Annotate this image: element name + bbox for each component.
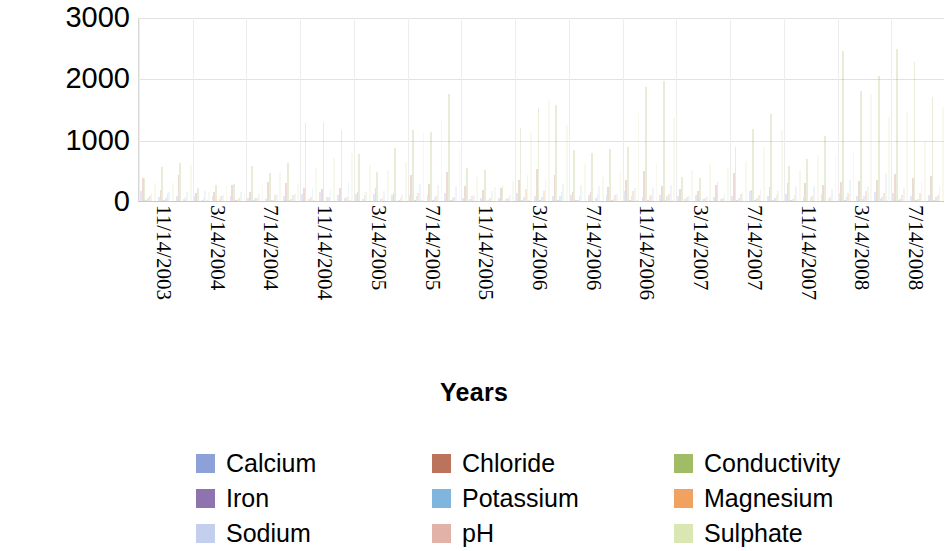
bar: [222, 195, 224, 201]
bar: [849, 180, 851, 201]
bar: [369, 165, 371, 201]
bar: [813, 186, 815, 201]
legend-color-swatch: [674, 524, 693, 543]
bar: [258, 194, 260, 201]
bar: [688, 196, 690, 201]
bar: [602, 177, 604, 201]
bar: [573, 150, 575, 201]
x-axis-tick-label: 3/14/2006: [529, 205, 551, 365]
bar: [742, 192, 744, 201]
legend-item[interactable]: Conductivity: [674, 446, 840, 480]
bar: [745, 161, 747, 201]
bar: [430, 132, 432, 201]
x-axis-tick-label: 7/14/2005: [422, 205, 444, 365]
bar: [699, 178, 701, 201]
bar: [870, 94, 872, 201]
bar: [706, 196, 708, 201]
y-axis-tick-label: 0: [30, 187, 130, 216]
bar: [387, 170, 389, 201]
bar: [656, 164, 658, 201]
legend-color-swatch: [674, 454, 693, 473]
bar: [269, 173, 271, 201]
bar: [681, 177, 683, 201]
bar: [548, 100, 550, 201]
bar: [405, 162, 407, 201]
x-axis-tick-label: 3/14/2005: [368, 205, 390, 365]
bar: [584, 164, 586, 201]
bar: [520, 128, 522, 201]
bar: [351, 153, 353, 201]
x-axis-tick-label: 7/14/2008: [905, 205, 927, 365]
bar: [788, 166, 790, 201]
bar: [752, 129, 754, 201]
x-axis-tick-label: 7/14/2004: [260, 205, 282, 365]
bar: [777, 191, 779, 201]
x-axis-tick-label: 11/14/2004: [314, 205, 336, 365]
legend-item[interactable]: Sulphate: [674, 516, 803, 550]
bar: [455, 186, 457, 201]
bar: [315, 168, 317, 201]
bar: [781, 130, 783, 201]
legend-item-label: pH: [462, 516, 494, 550]
legend-color-swatch: [674, 489, 693, 508]
x-axis-tick-label: 3/14/2007: [690, 205, 712, 365]
bar: [466, 168, 468, 201]
bar: [842, 51, 844, 201]
legend-item[interactable]: Magnesium: [674, 481, 833, 515]
bar: [831, 189, 833, 201]
chart-legend: CalciumChlorideConductivityIronPotassium…: [196, 446, 916, 551]
bar: [580, 185, 582, 202]
bar: [921, 182, 923, 201]
bar: [323, 122, 325, 201]
bar: [616, 194, 618, 201]
x-axis-tick-label: 7/14/2006: [583, 205, 605, 365]
bar: [903, 188, 905, 201]
legend-color-swatch: [432, 454, 451, 473]
legend-color-swatch: [196, 454, 215, 473]
bar: [530, 133, 532, 201]
bar: [186, 192, 188, 201]
bar: [333, 158, 335, 201]
bar: [179, 163, 181, 201]
bar: [358, 154, 360, 201]
legend-item[interactable]: Calcium: [196, 446, 316, 480]
bar: [853, 151, 855, 201]
bar: [562, 184, 564, 201]
bar: [566, 125, 568, 201]
y-axis-tick-label: 3000: [30, 3, 130, 32]
bar: [419, 184, 421, 201]
x-axis-tick-label: 11/14/2003: [153, 205, 175, 365]
bar: [473, 195, 475, 201]
bar: [383, 191, 385, 201]
legend-color-swatch: [196, 489, 215, 508]
bar: [168, 192, 170, 201]
bar: [491, 191, 493, 201]
chart-plot-area: [138, 18, 944, 202]
legend-item[interactable]: Iron: [196, 481, 269, 515]
bar: [279, 172, 281, 201]
bar: [555, 105, 557, 201]
x-axis-tick-label: 11/14/2005: [475, 205, 497, 365]
bar: [287, 163, 289, 201]
legend-item[interactable]: Chloride: [432, 446, 555, 480]
bar: [896, 49, 898, 201]
bar: [437, 185, 439, 201]
bar: [527, 175, 529, 201]
legend-color-swatch: [196, 524, 215, 543]
legend-item[interactable]: pH: [432, 516, 494, 550]
bar: [423, 133, 425, 201]
bar: [459, 150, 461, 201]
bar: [638, 113, 640, 201]
bar: [799, 170, 801, 201]
legend-item[interactable]: Sodium: [196, 516, 311, 550]
y-axis-tick-label: 2000: [30, 64, 130, 93]
bar: [727, 168, 729, 201]
bar: [190, 165, 192, 201]
bar: [144, 178, 146, 201]
bar: [376, 172, 378, 201]
legend-item[interactable]: Potassium: [432, 481, 579, 515]
bar: [824, 136, 826, 201]
bar: [312, 188, 314, 201]
x-axis-tick-label: 3/14/2008: [851, 205, 873, 365]
bar: [538, 108, 540, 201]
